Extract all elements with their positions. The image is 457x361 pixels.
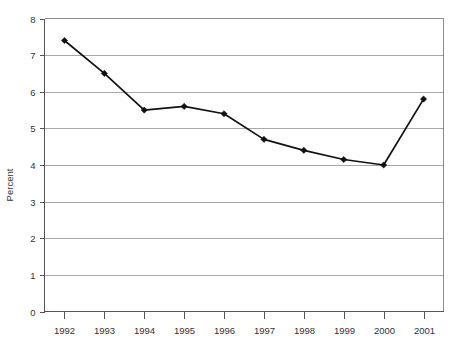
- y-tick-label: 6: [30, 87, 35, 98]
- y-tick-label: 4: [30, 160, 35, 171]
- y-tick-label: 5: [30, 123, 35, 134]
- x-tick-label: 1995: [174, 325, 195, 336]
- chart-background: [0, 0, 457, 361]
- x-tick-label: 1999: [334, 325, 355, 336]
- x-tick-label: 1996: [214, 325, 235, 336]
- x-tick-label: 1998: [294, 325, 315, 336]
- y-axis-title: Percent: [4, 168, 15, 201]
- x-tick-label: 2000: [374, 325, 395, 336]
- x-tick-label: 2001: [414, 325, 435, 336]
- y-tick-label: 2: [30, 233, 35, 244]
- y-axis-label-group: 012345678: [30, 14, 35, 318]
- y-tick-label: 0: [30, 307, 35, 318]
- y-tick-label: 1: [30, 270, 35, 281]
- x-tick-label: 1993: [94, 325, 115, 336]
- x-tick-label: 1994: [134, 325, 155, 336]
- x-tick-label: 1997: [254, 325, 275, 336]
- chart-canvas: 012345678 199219931994199519961997199819…: [0, 0, 457, 361]
- y-tick-label: 7: [30, 50, 35, 61]
- y-tick-label: 8: [30, 14, 35, 25]
- y-tick-label: 3: [30, 197, 35, 208]
- x-tick-label: 1992: [54, 325, 75, 336]
- line-chart-figure: 012345678 199219931994199519961997199819…: [0, 0, 457, 361]
